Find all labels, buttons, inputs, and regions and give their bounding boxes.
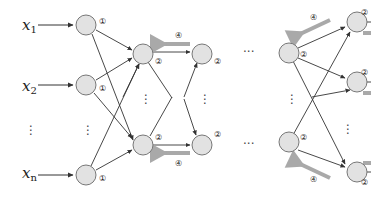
node-lm1-n xyxy=(279,132,299,152)
node-l3-1 xyxy=(192,44,212,64)
svg-text:②: ② xyxy=(361,178,368,187)
edges-l1-l2 xyxy=(91,30,139,170)
svg-text:④: ④ xyxy=(310,175,317,184)
ellipses: ··· ··· ⋮ ⋮ ⋮ ⋮ xyxy=(140,45,354,151)
svg-text:⋮: ⋮ xyxy=(25,123,37,137)
svg-text:⋮: ⋮ xyxy=(342,122,354,136)
node-l1-1 xyxy=(76,15,96,35)
svg-text:②: ② xyxy=(155,57,162,66)
svg-text:②: ② xyxy=(214,130,221,139)
svg-text:①: ① xyxy=(99,17,106,26)
svg-text:②: ② xyxy=(361,68,368,77)
svg-text:⋮: ⋮ xyxy=(199,92,211,106)
node-lm1-1 xyxy=(279,43,299,63)
backprop-arrows xyxy=(160,20,371,178)
svg-text:···: ··· xyxy=(243,137,254,151)
svg-text:②: ② xyxy=(300,133,307,142)
svg-text:④: ④ xyxy=(175,159,182,168)
svg-text:①: ① xyxy=(99,84,106,93)
input-label-xn: xn xyxy=(22,164,37,183)
svg-text:xn: xn xyxy=(22,164,37,183)
node-l3-n xyxy=(192,135,212,155)
node-l2-1 xyxy=(133,44,153,64)
svg-text:x1: x1 xyxy=(22,16,37,35)
neural-network-diagram: x1 x2 ⋮ ⋮ xn xyxy=(0,0,371,197)
input-label-x2: x2 xyxy=(22,77,37,96)
svg-text:⋮: ⋮ xyxy=(82,123,94,137)
input-label-ellipsis: ⋮ ⋮ xyxy=(25,123,94,137)
node-l1-2 xyxy=(76,75,96,95)
svg-text:⋮: ⋮ xyxy=(286,92,298,106)
svg-text:⋮: ⋮ xyxy=(140,92,152,106)
svg-text:···: ··· xyxy=(243,45,254,59)
svg-text:②: ② xyxy=(300,50,307,59)
svg-text:④: ④ xyxy=(310,13,317,22)
svg-text:②: ② xyxy=(214,57,221,66)
node-l2-n xyxy=(133,135,153,155)
svg-text:②: ② xyxy=(361,8,368,17)
input-label-x1: x1 xyxy=(22,16,37,35)
svg-text:①: ① xyxy=(99,174,106,183)
input-arrows xyxy=(38,25,73,175)
svg-text:④: ④ xyxy=(175,31,182,40)
edges-last xyxy=(293,22,371,172)
node-l1-n xyxy=(76,165,96,185)
svg-text:x2: x2 xyxy=(22,77,37,96)
svg-text:②: ② xyxy=(155,133,162,142)
